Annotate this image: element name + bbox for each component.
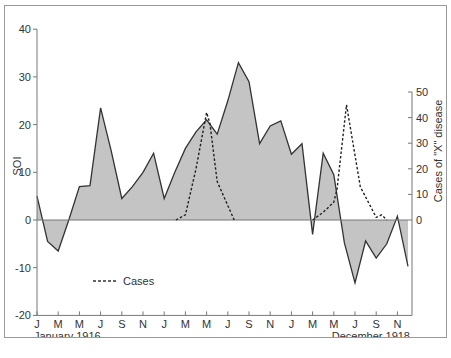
svg-text:0: 0 (416, 214, 422, 226)
soi-cases-chart: 403020100-10-20 50403020100 JMMJSNJMMJSN… (5, 6, 446, 337)
y-axis-label-soi: SOI (11, 157, 23, 176)
svg-text:M: M (329, 318, 338, 330)
x-axis-months: JMMJSNJMMJSNJMMJSN (34, 311, 412, 330)
svg-text:J: J (352, 318, 358, 330)
svg-text:M: M (75, 318, 84, 330)
svg-text:J: J (98, 318, 104, 330)
svg-text:M: M (202, 318, 211, 330)
svg-text:S: S (373, 318, 380, 330)
svg-text:M: M (54, 318, 63, 330)
legend-label-cases: Cases (123, 275, 155, 287)
x-start-label: January 1916 (34, 330, 101, 337)
svg-text:M: M (308, 318, 317, 330)
svg-text:J: J (34, 318, 40, 330)
svg-text:40: 40 (416, 112, 428, 124)
svg-text:30: 30 (416, 137, 428, 149)
svg-text:50: 50 (416, 86, 428, 98)
svg-text:0: 0 (25, 214, 31, 226)
svg-text:S: S (245, 318, 252, 330)
svg-text:M: M (181, 318, 190, 330)
svg-text:20: 20 (416, 163, 428, 175)
svg-text:N: N (393, 318, 401, 330)
svg-text:S: S (118, 318, 125, 330)
figure-frame: 403020100-10-20 50403020100 JMMJSNJMMJSN… (4, 5, 447, 338)
svg-text:10: 10 (416, 188, 428, 200)
right-axis-cases: 50403020100 (408, 86, 428, 315)
svg-text:N: N (139, 318, 147, 330)
x-end-label: December 1918 (332, 330, 410, 337)
svg-text:J: J (289, 318, 295, 330)
svg-text:40: 40 (19, 23, 31, 35)
svg-text:20: 20 (19, 119, 31, 131)
svg-text:30: 30 (19, 71, 31, 83)
y-axis-label-cases: Cases of "X" disease (432, 100, 444, 203)
svg-text:-20: -20 (15, 309, 31, 321)
svg-text:J: J (225, 318, 231, 330)
soi-area (37, 63, 408, 283)
legend: Cases (93, 275, 155, 287)
svg-text:J: J (161, 318, 167, 330)
svg-text:N: N (266, 318, 274, 330)
svg-text:-10: -10 (15, 262, 31, 274)
